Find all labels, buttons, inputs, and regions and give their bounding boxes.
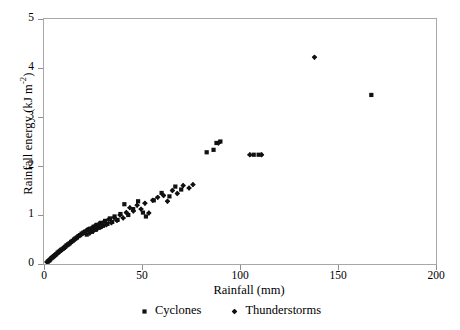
y-axis-title-text: Rainfall energy (kJ m bbox=[21, 84, 35, 195]
data-point bbox=[173, 184, 177, 188]
data-point bbox=[144, 214, 148, 218]
y-tick-label-3: 3 bbox=[8, 109, 34, 121]
legend-item-cyclones: Cyclones bbox=[139, 303, 202, 318]
data-point bbox=[136, 199, 140, 203]
data-point bbox=[190, 182, 195, 187]
data-point bbox=[205, 150, 209, 154]
square-marker-icon bbox=[139, 305, 150, 316]
data-point bbox=[211, 148, 215, 152]
data-point bbox=[186, 185, 191, 190]
chart-legend: CyclonesThunderstorms bbox=[0, 303, 460, 318]
y-tick-label-5: 5 bbox=[8, 11, 34, 23]
y-tick-label-2: 2 bbox=[8, 158, 34, 170]
legend-label: Cyclones bbox=[155, 303, 202, 317]
x-axis-title: Rainfall (mm) bbox=[0, 283, 460, 298]
plot-area bbox=[43, 18, 437, 265]
y-tick-label-1: 1 bbox=[8, 207, 34, 219]
legend-label: Thunderstorms bbox=[245, 303, 321, 317]
y-tick-label-4: 4 bbox=[8, 60, 34, 72]
x-tick-label-150: 150 bbox=[318, 269, 358, 281]
y-axis-title-exponent: -2 bbox=[18, 77, 28, 84]
data-point bbox=[312, 54, 317, 59]
y-tick-label-0: 0 bbox=[8, 256, 34, 268]
series-thunderstorms bbox=[44, 54, 317, 264]
data-point bbox=[167, 194, 171, 198]
data-point bbox=[122, 202, 126, 206]
x-tick-label-0: 0 bbox=[24, 269, 64, 281]
legend-item-thunderstorms: Thunderstorms bbox=[229, 303, 321, 318]
x-axis-title-text: Rainfall (mm) bbox=[213, 283, 284, 298]
data-point bbox=[369, 93, 373, 97]
x-tick-label-100: 100 bbox=[220, 269, 260, 281]
x-tick-label-50: 50 bbox=[122, 269, 162, 281]
data-point bbox=[142, 201, 147, 206]
y-axis-title-tail: ) bbox=[21, 73, 35, 77]
data-point bbox=[179, 187, 183, 191]
series-cyclones bbox=[46, 93, 374, 264]
x-tick-label-200: 200 bbox=[416, 269, 456, 281]
diamond-marker-icon bbox=[229, 305, 240, 316]
data-point bbox=[165, 199, 170, 204]
scatter-chart-figure: Rainfall energy (kJ m-2) 012345 05010015… bbox=[0, 0, 460, 330]
data-points-layer bbox=[44, 19, 436, 264]
